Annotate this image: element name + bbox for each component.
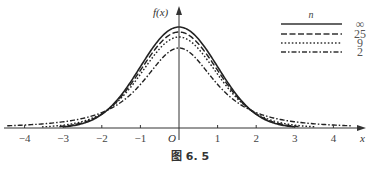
t-distribution-chart: −4−3−2−11234 x f(x) O n ∞2592 图 6. 5 xyxy=(0,0,372,169)
x-tick-label: 4 xyxy=(331,132,337,144)
x-tick-label: −2 xyxy=(96,132,108,144)
x-tick-label: 2 xyxy=(253,132,259,144)
figure-caption: 图 6. 5 xyxy=(171,150,209,163)
x-tick-label: −3 xyxy=(57,132,69,144)
origin-label: O xyxy=(168,132,176,144)
legend-title: n xyxy=(309,9,314,20)
legend-label: 2 xyxy=(357,45,363,59)
y-axis-arrow-icon xyxy=(176,6,182,15)
x-tick-label: 3 xyxy=(292,132,298,144)
legend: n ∞2592 xyxy=(281,9,366,59)
x-tick-label: −1 xyxy=(135,132,147,144)
x-axis-arrow-icon xyxy=(357,125,366,131)
x-tick-label: 1 xyxy=(215,132,221,144)
x-axis-label: x xyxy=(359,132,365,144)
x-tick-label: −4 xyxy=(19,132,31,144)
y-axis-label: f(x) xyxy=(153,6,169,19)
